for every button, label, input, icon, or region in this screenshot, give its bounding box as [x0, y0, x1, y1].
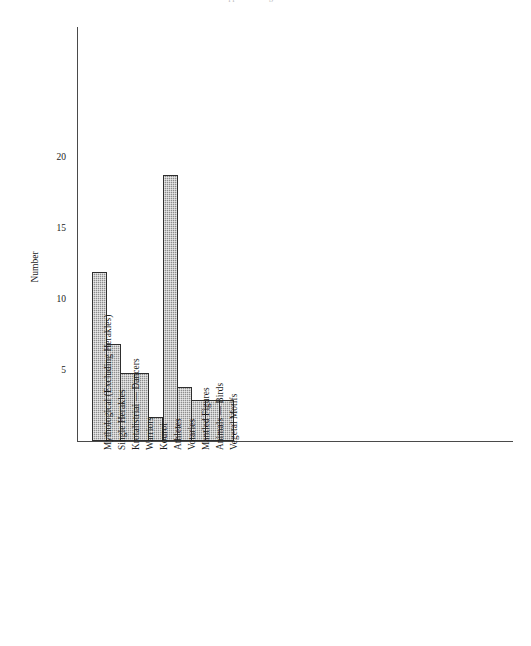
x-axis-line	[77, 441, 513, 442]
x-axis-tick-label: Warriors	[145, 417, 155, 450]
x-axis-tick-label: Animals — Birds	[215, 383, 225, 450]
chart-plot-area: Number 5101520 Mythological (Excluding H…	[0, 0, 531, 646]
y-axis-tick-label: 10	[38, 294, 66, 304]
y-axis-tick-label: 5	[38, 365, 66, 375]
x-axis-tick-label: Vegetal Motifs	[229, 394, 239, 450]
x-axis-tick-label: Votaries	[187, 419, 197, 450]
x-axis-tick-label: Kouroi	[159, 423, 169, 450]
y-axis-line	[77, 27, 78, 442]
x-axis-tick-label: Krotalistriai — Dancers	[131, 358, 141, 450]
x-axis-tick-label: Mantled Figures	[201, 387, 211, 450]
x-axis-tick-label: Mythological (Excluding Herakles)	[103, 315, 113, 451]
x-axis-tick-label: Single Herakles	[117, 389, 127, 450]
y-axis-tick-label: 15	[38, 223, 66, 233]
y-axis-tick-label: 20	[38, 152, 66, 162]
x-axis-tick-label: Athletes	[173, 418, 183, 450]
bar	[163, 175, 178, 441]
